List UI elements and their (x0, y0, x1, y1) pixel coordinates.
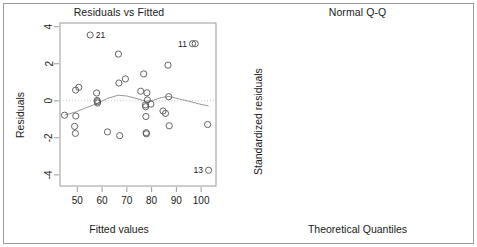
data-point (116, 80, 122, 86)
panel-normal-qq: Normal Q-Q Theoretical Quantiles -2-1012… (238, 0, 477, 247)
outlier-label: 13 (194, 165, 204, 175)
x-tick-label: 50 (72, 195, 84, 206)
data-point (141, 71, 147, 77)
x-tick-label: 60 (97, 195, 109, 206)
lowess-smoother-line (65, 95, 209, 115)
y-tick-label: 4 (44, 23, 55, 29)
data-point (166, 123, 172, 129)
data-point (144, 90, 150, 96)
y-tick-label: 0 (44, 98, 55, 104)
y-tick-label: 2 (44, 61, 55, 67)
outlier-label: 11 (178, 39, 187, 49)
data-point (117, 133, 123, 139)
data-point (165, 62, 171, 68)
x-tick-label: 80 (146, 195, 158, 206)
data-point (138, 88, 144, 94)
y-axis-title-standardized-residuals: Standardized residuals (252, 68, 264, 175)
x-tick-label: 100 (193, 195, 210, 206)
data-point (72, 123, 78, 129)
data-point (122, 76, 128, 82)
scatter-plot-residuals-vs-fitted: 5060708090100420-2-4211113 (0, 0, 238, 247)
outlier-label: 21 (96, 30, 106, 40)
data-point (104, 129, 110, 135)
data-point (94, 90, 100, 96)
x-tick-label: 90 (171, 195, 183, 206)
scatter-plot-normal-qq: -2-1012210-1-2132120 (238, 0, 477, 247)
data-point (72, 130, 78, 136)
data-point (73, 113, 79, 119)
panel-residuals-vs-fitted: Residuals vs Fitted Fitted values Residu… (0, 0, 238, 247)
data-point (206, 167, 212, 173)
data-point (143, 113, 149, 119)
y-tick-label: -2 (44, 133, 55, 142)
data-point (205, 121, 211, 127)
y-tick-label: -4 (44, 170, 55, 179)
data-point (87, 32, 93, 38)
data-point (115, 51, 121, 57)
x-tick-label: 70 (121, 195, 133, 206)
figure-canvas: Residuals vs Fitted Fitted values Residu… (0, 0, 477, 247)
plot-box (60, 23, 216, 186)
